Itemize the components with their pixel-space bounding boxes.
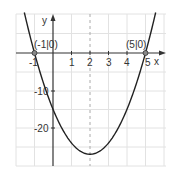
tick-x-1: 1 — [69, 57, 75, 68]
root-point-left — [32, 51, 37, 56]
tick-y-minus-10: -10 — [34, 86, 49, 97]
tick-x-4: 4 — [124, 57, 130, 68]
tick-x-3: 3 — [106, 57, 112, 68]
tick-x-2: 2 — [87, 57, 93, 68]
x-axis-label: x — [154, 56, 159, 67]
root-point-right — [143, 51, 148, 56]
root-label-right: (5|0) — [126, 39, 146, 50]
parabola-chart: y x (-1|0) (5|0) -1 1 2 3 4 5 -10 -20 — [0, 0, 171, 182]
root-label-left: (-1|0) — [34, 39, 58, 50]
tick-y-minus-20: -20 — [34, 123, 49, 134]
tick-x-5: 5 — [145, 57, 151, 68]
y-axis — [51, 14, 56, 166]
tick-x-minus-1: -1 — [29, 57, 38, 68]
y-axis-label: y — [42, 15, 47, 26]
